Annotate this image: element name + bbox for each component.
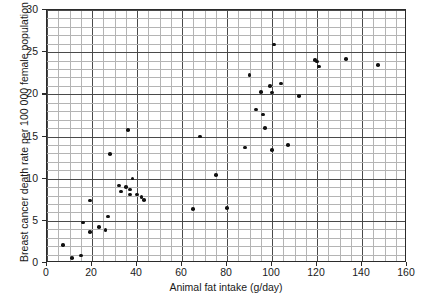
x-axis-tick-label: 80	[206, 266, 246, 278]
gridline-vertical	[182, 10, 183, 261]
y-axis-tick	[42, 220, 46, 221]
gridline-vertical	[396, 10, 397, 261]
gridline-horizontal	[47, 170, 405, 171]
data-point	[79, 254, 83, 258]
data-point	[70, 256, 74, 260]
gridline-horizontal	[47, 77, 405, 78]
gridline-vertical	[373, 10, 374, 261]
data-point	[286, 143, 290, 147]
x-axis-tick-label: 40	[116, 266, 156, 278]
gridline-horizontal	[47, 187, 405, 188]
gridline-vertical	[103, 10, 104, 261]
data-point	[88, 199, 92, 203]
gridline-vertical	[126, 10, 127, 261]
data-point	[268, 84, 272, 88]
data-point	[270, 91, 274, 95]
gridline-horizontal	[47, 255, 405, 256]
x-axis-tick-label: 160	[386, 266, 421, 278]
gridline-vertical	[272, 10, 273, 261]
scatter-chart-figure: 020406080100120140160 051015202530 Anima…	[0, 0, 421, 299]
y-axis-tick	[42, 178, 46, 179]
data-point	[104, 228, 108, 232]
data-point	[97, 225, 101, 229]
gridline-horizontal	[47, 69, 405, 70]
data-point	[254, 108, 258, 112]
data-point	[248, 73, 252, 77]
gridline-horizontal	[47, 238, 405, 239]
data-point	[198, 135, 202, 139]
data-point	[225, 206, 229, 210]
data-point	[128, 188, 132, 192]
data-point	[297, 94, 301, 98]
gridline-vertical	[328, 10, 329, 261]
gridline-vertical	[306, 10, 307, 261]
data-point	[106, 215, 110, 219]
x-axis-tick-label: 100	[251, 266, 291, 278]
gridline-vertical	[47, 10, 48, 261]
data-point	[135, 193, 139, 197]
y-axis-tick	[42, 93, 46, 94]
plot-area	[46, 9, 406, 262]
x-axis-title: Animal fat intake (g/day)	[46, 281, 406, 293]
gridline-horizontal	[47, 18, 405, 19]
data-point	[88, 230, 92, 234]
gridline-vertical	[58, 10, 59, 261]
data-point	[81, 221, 85, 225]
data-point	[344, 57, 348, 61]
x-axis-tick-label: 120	[296, 266, 336, 278]
gridline-horizontal	[47, 35, 405, 36]
gridline-vertical	[70, 10, 71, 261]
gridline-horizontal	[47, 162, 405, 163]
gridline-horizontal	[47, 44, 405, 45]
data-point	[270, 148, 274, 152]
y-axis-tick	[42, 9, 46, 10]
gridline-horizontal	[47, 204, 405, 205]
data-point	[126, 128, 130, 132]
gridline-vertical	[160, 10, 161, 261]
y-axis-tick	[42, 51, 46, 52]
gridline-horizontal	[47, 137, 405, 138]
y-axis-tick	[42, 262, 46, 263]
gridline-vertical	[385, 10, 386, 261]
gridline-horizontal	[47, 212, 405, 213]
gridline-horizontal	[47, 153, 405, 154]
x-axis-tick-label: 140	[341, 266, 381, 278]
gridline-vertical	[261, 10, 262, 261]
x-axis-tick-label: 20	[71, 266, 111, 278]
data-point	[259, 90, 263, 94]
gridline-vertical	[115, 10, 116, 261]
gridline-horizontal	[47, 229, 405, 230]
gridline-vertical	[137, 10, 138, 261]
gridline-vertical	[171, 10, 172, 261]
gridline-vertical	[205, 10, 206, 261]
data-point	[263, 126, 267, 130]
gridline-horizontal	[47, 86, 405, 87]
data-point	[108, 152, 112, 156]
gridline-vertical	[317, 10, 318, 261]
data-point	[117, 184, 121, 188]
gridline-horizontal	[47, 27, 405, 28]
grid-lines	[47, 10, 405, 261]
gridline-vertical	[238, 10, 239, 261]
y-axis-tick	[42, 136, 46, 137]
gridline-horizontal	[47, 94, 405, 95]
x-axis-tick-label: 60	[161, 266, 201, 278]
data-point	[142, 198, 146, 202]
data-point	[128, 193, 132, 197]
data-point	[279, 82, 283, 86]
gridline-horizontal	[47, 246, 405, 247]
data-point	[131, 177, 135, 181]
gridline-vertical	[340, 10, 341, 261]
gridline-horizontal	[47, 61, 405, 62]
gridline-horizontal	[47, 179, 405, 180]
data-point	[315, 60, 319, 64]
gridline-vertical	[92, 10, 93, 261]
data-point	[191, 207, 195, 211]
data-point	[376, 63, 380, 67]
gridline-vertical	[351, 10, 352, 261]
gridline-horizontal	[47, 128, 405, 129]
y-axis-title: Breast cancer death rate per 100 000 fem…	[18, 2, 30, 262]
data-point	[272, 43, 276, 47]
gridline-vertical	[362, 10, 363, 261]
data-point	[214, 173, 218, 177]
